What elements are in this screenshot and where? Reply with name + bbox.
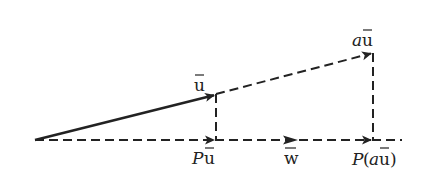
label-au-a: a xyxy=(352,30,362,50)
label-u-text: u xyxy=(194,75,205,95)
label-u: u xyxy=(194,75,205,95)
label-Pu-P: P xyxy=(191,148,204,168)
label-w-text: w xyxy=(284,148,299,168)
vector-projection-diagram: u a u P u w P ( a u ) xyxy=(0,0,425,178)
label-Pu-u: u xyxy=(204,148,215,168)
label-Pau-a: a xyxy=(369,149,379,169)
label-Pu: P u xyxy=(191,148,215,168)
label-Pau-close: ) xyxy=(390,149,397,169)
label-au-u: u xyxy=(362,30,373,50)
label-w: w xyxy=(284,148,299,168)
vector-au-extension xyxy=(216,54,371,95)
label-Pau: P ( a u ) xyxy=(351,148,397,169)
label-au: a u xyxy=(352,30,373,50)
label-Pau-u: u xyxy=(379,149,390,169)
vector-u xyxy=(35,95,214,140)
